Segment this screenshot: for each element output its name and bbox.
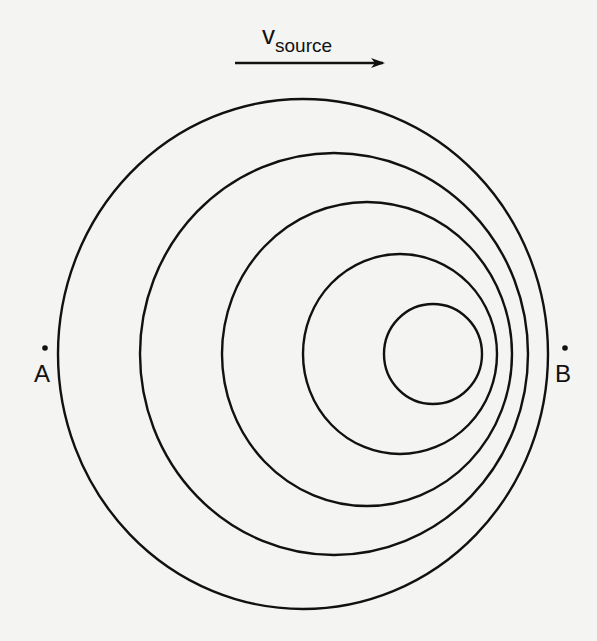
wavefront-3 [222, 202, 512, 506]
wavefront-5 [384, 304, 482, 404]
point-b-dot [562, 345, 568, 351]
point-a-dot [42, 345, 48, 351]
velocity-label: vsource [262, 22, 332, 48]
wavefront-group [58, 99, 548, 609]
velocity-subscript: source [275, 35, 332, 56]
point-b-label: B [555, 362, 571, 386]
point-a-label: A [34, 362, 50, 386]
wavefront-4 [303, 254, 497, 454]
velocity-symbol: v [262, 20, 275, 50]
wavefront-2 [140, 153, 528, 555]
doppler-diagram [0, 0, 597, 641]
